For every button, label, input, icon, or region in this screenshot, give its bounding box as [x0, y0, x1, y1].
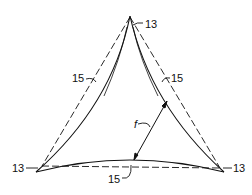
- reference-triangle-dashed: [42, 17, 220, 168]
- curved-triangle-outline: [36, 16, 224, 172]
- left-curved-side: [36, 16, 130, 172]
- label-side-bottom: 15: [108, 173, 120, 185]
- label-vertex-right: 13: [233, 162, 245, 174]
- label-side-right: 15: [171, 72, 183, 84]
- label-vertex-left: 13: [12, 162, 24, 174]
- right-curved-side: [130, 16, 224, 172]
- bottom-curved-side: [36, 160, 224, 172]
- label-vertex-top: 13: [145, 18, 157, 30]
- label-side-left: 15: [72, 72, 84, 84]
- leader-lines: [26, 23, 232, 178]
- dimension-f-arrow: [134, 101, 167, 160]
- label-dimension-f: f: [134, 118, 138, 130]
- diagram-canvas: 13 15 15 f 13 13 15: [0, 0, 252, 195]
